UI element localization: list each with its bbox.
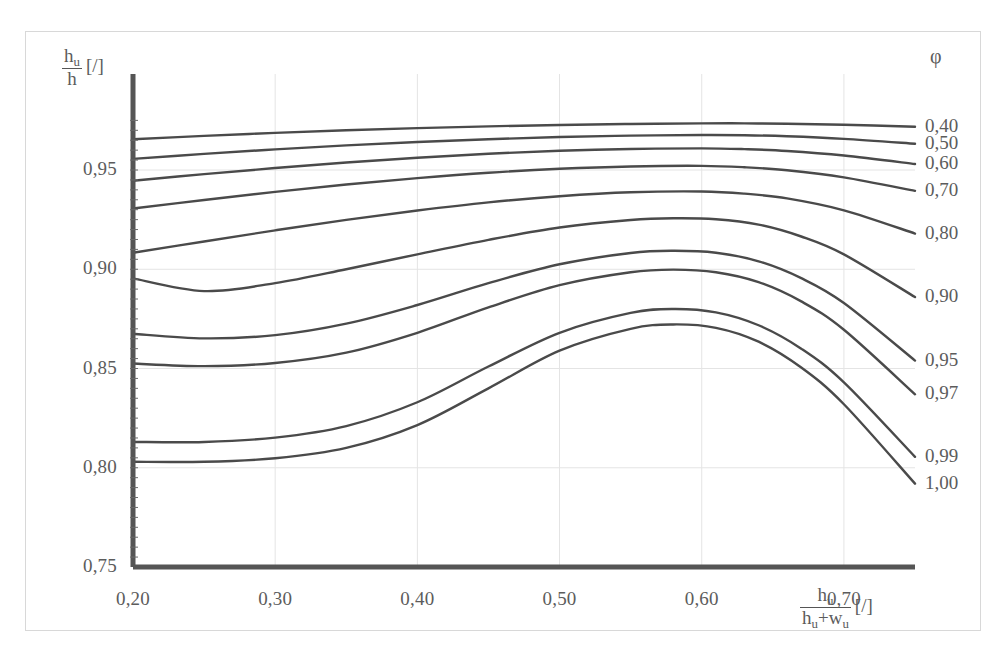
curve-phi-0-60 (133, 148, 915, 180)
legend-label-phi-0-90: 0,90 (925, 285, 958, 307)
x-tick-label: 0,60 (674, 588, 730, 610)
legend-label-phi-0-95: 0,95 (925, 349, 958, 371)
legend-label-phi-0-97: 0,97 (925, 382, 958, 404)
curve-phi-0-90 (133, 218, 915, 297)
legend-label-phi-0-70: 0,70 (925, 179, 958, 201)
x-tick-label: 0,40 (389, 588, 445, 610)
curve-phi-0-50 (133, 135, 915, 159)
axis-lines (133, 74, 915, 567)
x-tick-label: 0,50 (532, 588, 588, 610)
legend-label-phi-0-50: 0,50 (925, 132, 958, 154)
legend-label-phi-1-00: 1,00 (925, 472, 958, 494)
curve-group (133, 123, 915, 483)
legend-label-phi-0-80: 0,80 (925, 222, 958, 244)
curve-phi-0-97 (133, 270, 915, 395)
plot-area (0, 0, 1007, 666)
curve-phi-0-95 (133, 251, 915, 361)
y-tick-label: 0,95 (55, 158, 117, 180)
legend-label-phi-0-60: 0,60 (925, 152, 958, 174)
curve-phi-0-99 (133, 309, 915, 457)
gridlines (133, 74, 915, 567)
y-tick-label: 0,80 (55, 456, 117, 478)
x-tick-label: 0,20 (105, 588, 161, 610)
chart-page: hu h [/] hu hu+wu [/] φ 0,200,300,400,50… (0, 0, 1007, 666)
y-tick-label: 0,75 (55, 555, 117, 577)
x-tick-label: 0,70 (816, 588, 872, 610)
y-tick-label: 0,85 (55, 357, 117, 379)
y-tick-label: 0,90 (55, 257, 117, 279)
x-tick-label: 0,30 (247, 588, 303, 610)
legend-label-phi-0-99: 0,99 (925, 445, 958, 467)
curve-phi-0-70 (133, 166, 915, 209)
curve-phi-0-80 (133, 191, 915, 252)
